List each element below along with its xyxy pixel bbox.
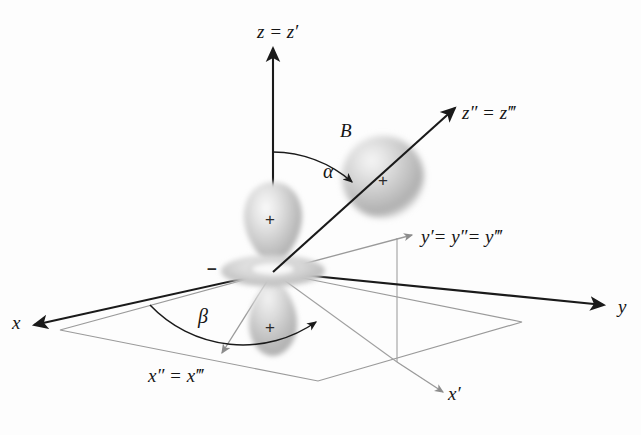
- orbital-rotation-diagram: z = z′ z″ = z‴ y′= y″= y‴ y x x″ = x‴ x′…: [0, 0, 641, 435]
- axis-y: [273, 272, 604, 305]
- angle-label-alpha: α: [323, 161, 334, 181]
- axis-label-x-double-prime: x″ = x‴: [148, 366, 203, 385]
- axis-label-z: z = z′: [257, 22, 298, 41]
- orbital-torus-minus-sign: −: [207, 261, 217, 278]
- axis-label-z-double-prime: z″ = z‴: [462, 103, 515, 122]
- axis-label-x: x: [12, 313, 20, 332]
- axis-x-prime: [397, 362, 443, 392]
- atom-label-b: B: [340, 121, 352, 140]
- angle-label-beta: β: [198, 306, 208, 326]
- atom-b-plus-sign: +: [378, 172, 388, 189]
- orbital-lower-lobe-plus-sign: +: [265, 319, 275, 336]
- axis-label-x-prime: x′: [448, 384, 461, 403]
- axis-label-y: y: [618, 297, 626, 316]
- diagram-canvas: [0, 0, 641, 435]
- orbital-upper-lobe-plus-sign: +: [265, 211, 275, 228]
- axis-label-y-primes: y′= y″= y‴: [421, 227, 502, 246]
- angle-alpha-arc: [273, 152, 352, 182]
